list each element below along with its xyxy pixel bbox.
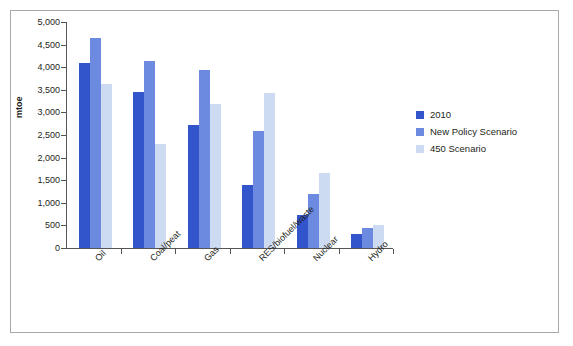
y-axis-tick-label: 3,000	[24, 108, 60, 117]
bar	[133, 92, 144, 248]
legend-item: 450 Scenario	[416, 144, 517, 154]
y-axis-tick-labels: 05001,0001,5002,0002,5003,0003,5004,0004…	[20, 0, 60, 260]
bar	[144, 61, 155, 248]
y-axis-tick-label: 0	[24, 244, 60, 253]
legend-item: 2010	[416, 110, 517, 120]
x-axis-tick	[121, 249, 122, 254]
legend-label: 2010	[430, 110, 451, 120]
legend-swatch-icon	[416, 111, 424, 119]
legend-label: 450 Scenario	[430, 144, 486, 154]
x-axis-tick	[175, 249, 176, 254]
legend-swatch-icon	[416, 128, 424, 136]
bar	[101, 84, 112, 248]
legend-label: New Policy Scenario	[430, 127, 517, 137]
bar-chart: mtoe 05001,0001,5002,0002,5003,0003,5004…	[0, 0, 573, 346]
y-axis-tick-label: 5,000	[24, 18, 60, 27]
x-axis-tick	[284, 249, 285, 254]
bar	[253, 131, 264, 248]
x-axis-tick	[339, 249, 340, 254]
bar-group	[188, 22, 221, 248]
bar	[264, 93, 275, 248]
bar-group	[242, 22, 275, 248]
bar	[351, 234, 362, 248]
bar	[242, 185, 253, 248]
bar-group	[351, 22, 384, 248]
bar	[79, 63, 90, 248]
y-axis-tick-label: 2,500	[24, 131, 60, 140]
x-axis-category-label: Oil	[93, 248, 108, 263]
y-axis-tick-label: 2,000	[24, 154, 60, 163]
y-axis-tick-label: 1,000	[24, 199, 60, 208]
legend-item: New Policy Scenario	[416, 127, 517, 137]
y-axis-tick-label: 3,500	[24, 86, 60, 95]
bar	[308, 194, 319, 248]
chart-legend: 2010New Policy Scenario450 Scenario	[416, 110, 517, 161]
bar-group	[79, 22, 112, 248]
bar-group	[133, 22, 166, 248]
x-axis-tick	[393, 249, 394, 254]
y-axis-tick-label: 4,000	[24, 63, 60, 72]
y-axis-tick-label: 500	[24, 221, 60, 230]
bar	[188, 125, 199, 248]
bar	[210, 104, 221, 248]
plot-bars	[66, 22, 393, 248]
x-axis-tick	[230, 249, 231, 254]
bar	[155, 144, 166, 248]
bar	[362, 228, 373, 248]
y-axis-tick-label: 4,500	[24, 41, 60, 50]
legend-swatch-icon	[416, 145, 424, 153]
bar	[319, 173, 330, 248]
bar	[90, 38, 101, 248]
bar	[199, 70, 210, 248]
y-axis-tick-label: 1,500	[24, 176, 60, 185]
